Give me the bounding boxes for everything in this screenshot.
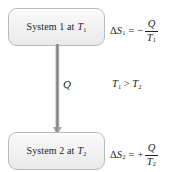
- system-2-label: System 2 at T2: [27, 146, 87, 156]
- eqn2-numerator: Q: [146, 143, 158, 155]
- eqn1-denominator-symbol: T: [147, 32, 153, 43]
- system-2-temperature-subscript: 2: [83, 150, 86, 157]
- eqn2-fraction: Q T2: [145, 143, 158, 167]
- system-1-label: System 1 at T1: [27, 22, 87, 32]
- temp-compare-left-symbol: T: [112, 78, 118, 89]
- eqn2-sign: +: [137, 150, 144, 161]
- system-2-box: System 2 at T2: [8, 132, 105, 170]
- eqn2-denominator-subscript: 2: [153, 160, 156, 167]
- temp-compare-right-subscript: 2: [138, 83, 141, 90]
- temperature-comparison: T1>T2: [112, 79, 141, 90]
- eqn2-denominator: T2: [145, 156, 158, 168]
- system-2-prefix: System 2 at: [27, 145, 77, 156]
- eqn1-delta: Δ: [110, 26, 117, 37]
- eqn1-fraction: Q T1: [145, 19, 158, 43]
- eqn1-denominator: T1: [145, 32, 158, 44]
- entropy-equation-system-2: ΔS2=+ Q T2: [110, 143, 158, 167]
- arrow-shaft: [55, 44, 59, 128]
- system-1-temperature-subscript: 1: [83, 26, 86, 33]
- system-1-prefix: System 1 at: [27, 21, 77, 32]
- eqn1-denominator-subscript: 1: [153, 36, 156, 43]
- eqn2-denominator-symbol: T: [147, 156, 153, 167]
- eqn2-equals: =: [125, 150, 137, 161]
- eqn1-numerator: Q: [146, 19, 158, 31]
- temp-compare-left-subscript: 1: [118, 83, 121, 90]
- eqn2-quantity-subscript: 2: [122, 154, 125, 161]
- eqn2-delta: Δ: [110, 150, 117, 161]
- entropy-equation-system-1: ΔS1=− Q T1: [110, 19, 158, 43]
- eqn1-equals: =: [125, 26, 137, 37]
- eqn1-quantity-subscript: 1: [122, 30, 125, 37]
- eqn1-sign: −: [137, 26, 144, 37]
- system-1-box: System 1 at T1: [8, 8, 105, 46]
- heat-transfer-diagram: System 1 at T1 Q T1>T2 ΔS1=− Q: [0, 0, 179, 172]
- heat-quantity-label: Q: [63, 79, 71, 90]
- temp-compare-relation: >: [121, 78, 132, 89]
